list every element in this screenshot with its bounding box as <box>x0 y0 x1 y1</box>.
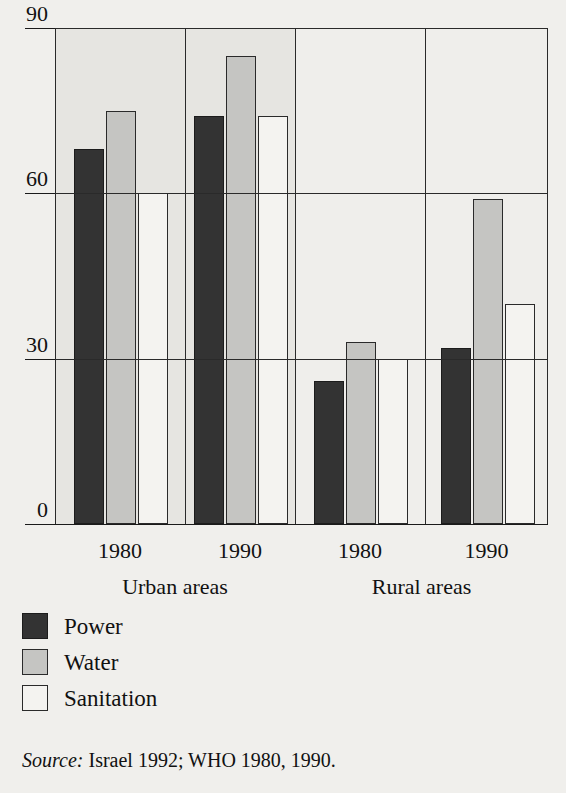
legend-swatch-power-icon <box>22 613 48 639</box>
y-tick-label-0: 0 <box>0 499 48 521</box>
source-label: Source: <box>22 749 83 771</box>
legend-swatch-sanitation-icon <box>22 685 48 711</box>
legend-item-water: Water <box>22 644 157 680</box>
y-tick-label-90: 90 <box>0 3 48 25</box>
chart-panel <box>185 28 295 524</box>
gridline-30 <box>55 359 548 360</box>
x-tick-label-rural-1990: 1990 <box>425 540 548 562</box>
bar-sanitation-rural-1980 <box>378 359 408 524</box>
x-tick-label-urban-1980: 1980 <box>55 540 185 562</box>
x-tick-label-rural-1980: 1980 <box>295 540 425 562</box>
group-label-urban: Urban areas <box>55 576 295 598</box>
x-tick-label-urban-1990: 1990 <box>185 540 295 562</box>
group-label-rural: Rural areas <box>295 576 548 598</box>
x-axis-baseline <box>25 524 548 525</box>
bar-sanitation-rural-1990 <box>505 304 535 524</box>
chart-plot-area <box>55 28 548 524</box>
bar-power-rural-1990 <box>441 348 471 524</box>
legend-label-sanitation: Sanitation <box>64 687 157 710</box>
source-note: Source: Israel 1992; WHO 1980, 1990. <box>22 750 336 770</box>
y-tick-line-60 <box>25 193 55 194</box>
y-tick-label-30: 30 <box>0 334 48 356</box>
legend-item-power: Power <box>22 608 157 644</box>
bar-sanitation-urban-1990 <box>258 116 288 524</box>
bar-power-rural-1980 <box>314 381 344 524</box>
legend-item-sanitation: Sanitation <box>22 680 157 716</box>
chart-legend: PowerWaterSanitation <box>22 608 157 716</box>
bar-water-urban-1980 <box>106 111 136 524</box>
source-text: Israel 1992; WHO 1980, 1990. <box>88 749 335 771</box>
chart-panel <box>55 28 185 524</box>
bar-water-rural-1980 <box>346 342 376 524</box>
chart-panel <box>295 28 425 524</box>
y-tick-line-30 <box>25 359 55 360</box>
bar-power-urban-1980 <box>74 149 104 524</box>
y-tick-label-60: 60 <box>0 168 48 190</box>
gridline-60 <box>55 193 548 194</box>
bar-water-urban-1990 <box>226 56 256 524</box>
chart-panel <box>425 28 548 524</box>
bar-water-rural-1990 <box>473 199 503 524</box>
legend-swatch-water-icon <box>22 649 48 675</box>
legend-label-power: Power <box>64 615 123 638</box>
y-tick-line-90 <box>25 28 55 29</box>
bar-power-urban-1990 <box>194 116 224 524</box>
legend-label-water: Water <box>64 651 118 674</box>
